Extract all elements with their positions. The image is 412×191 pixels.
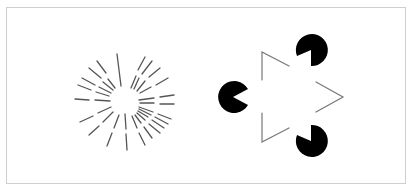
pacman-inducer-left xyxy=(218,81,248,113)
radial-line xyxy=(125,114,126,129)
radial-line xyxy=(126,134,127,150)
radial-line xyxy=(149,68,160,77)
kanizsa-outline-triangle xyxy=(262,52,343,142)
radial-line xyxy=(89,126,99,135)
radial-line xyxy=(140,87,151,93)
radial-line xyxy=(156,78,168,85)
radial-line xyxy=(139,98,154,100)
radial-line xyxy=(103,112,113,122)
radial-line xyxy=(107,133,112,146)
radial-line xyxy=(138,57,145,70)
radial-line xyxy=(114,115,119,128)
radial-line xyxy=(75,99,89,100)
pacman-inducer-bottom xyxy=(296,125,328,157)
radial-line xyxy=(89,68,101,78)
triangle-corner-top-left xyxy=(262,52,289,80)
radial-line xyxy=(95,100,110,101)
radial-line xyxy=(139,133,145,145)
ehrenstein-figure xyxy=(75,54,174,150)
radial-line xyxy=(117,54,121,86)
illusory-contour-figure xyxy=(0,0,412,191)
radial-line xyxy=(97,61,106,73)
radial-line xyxy=(144,127,152,138)
radial-line xyxy=(98,107,111,113)
radial-line xyxy=(80,116,93,122)
pacman-inducer-top xyxy=(296,34,328,66)
radial-line xyxy=(160,95,174,97)
triangle-corner-right xyxy=(316,82,343,112)
radial-line xyxy=(138,111,148,117)
illustration-canvas xyxy=(0,0,412,191)
radial-line xyxy=(78,85,91,90)
triangle-corner-bottom-left xyxy=(262,113,289,142)
radial-line xyxy=(158,114,171,119)
radial-line xyxy=(82,78,95,85)
radial-line xyxy=(96,92,109,96)
radial-line xyxy=(99,87,111,93)
radial-line xyxy=(149,124,160,133)
radial-line xyxy=(142,61,152,74)
kanizsa-inducers xyxy=(218,34,328,157)
radial-line xyxy=(132,116,137,128)
radial-line xyxy=(137,81,145,91)
